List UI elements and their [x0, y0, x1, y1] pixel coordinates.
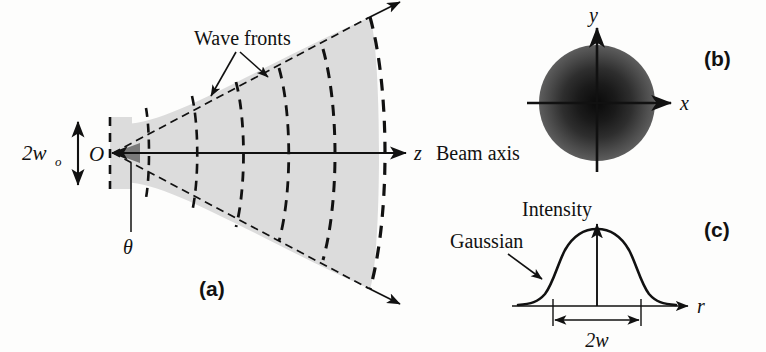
panel-b: y x (b)	[527, 4, 731, 172]
intensity-label: Intensity	[522, 198, 592, 221]
figure-canvas: 2w o O θ Wave fronts z Beam axis (a)	[0, 0, 766, 352]
panel-a-tag: (a)	[199, 277, 225, 300]
y-axis-label: y	[587, 4, 598, 27]
beam-boundary-upper-arrow	[366, 2, 400, 19]
z-axis-label: z	[413, 142, 422, 164]
gaussian-curve-label: Gaussian	[450, 230, 523, 252]
x-axis-label: x	[679, 92, 689, 114]
gaussian-leader-line	[508, 254, 542, 279]
gaussian-beam-figure: 2w o O θ Wave fronts z Beam axis (a)	[0, 0, 766, 352]
width-label: 2w	[585, 329, 609, 351]
origin-label: O	[89, 142, 104, 166]
waist-label-subscript: o	[55, 154, 62, 169]
wave-fronts-leader-2	[240, 52, 268, 77]
panel-c: Intensity 2w Gaussian r (c)	[450, 198, 730, 351]
beam-axis-label: Beam axis	[436, 142, 520, 164]
r-axis-label: r	[697, 295, 705, 317]
angle-label: θ	[123, 236, 133, 258]
panel-c-tag: (c)	[704, 218, 730, 241]
wave-fronts-label: Wave fronts	[194, 27, 291, 49]
beam-boundary-lower-arrow	[366, 287, 400, 304]
panel-a: 2w o O θ Wave fronts z Beam axis (a)	[22, 2, 520, 304]
waist-label: 2w	[22, 141, 47, 165]
panel-b-tag: (b)	[704, 47, 731, 70]
